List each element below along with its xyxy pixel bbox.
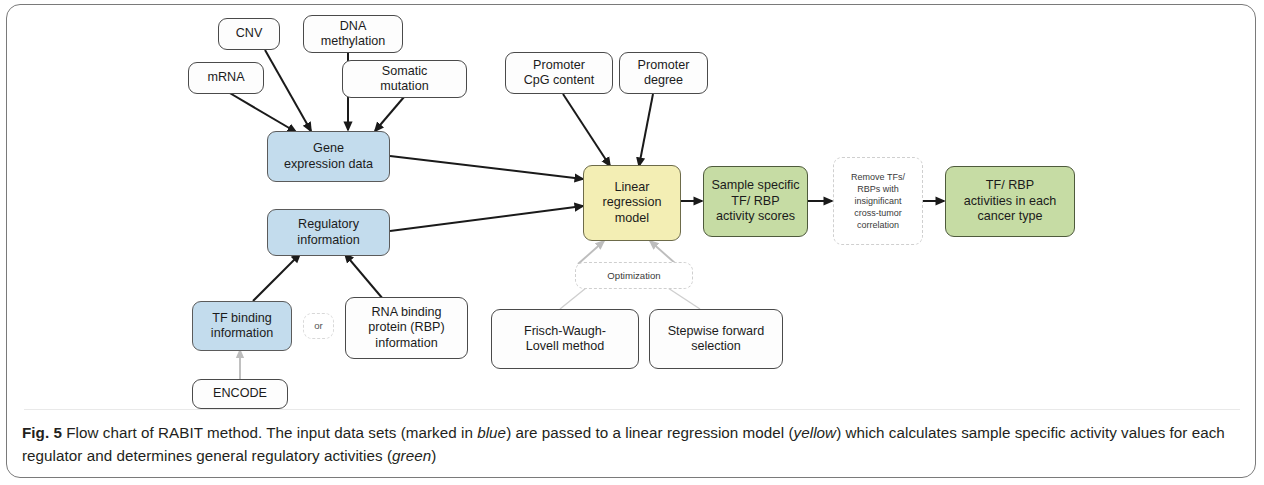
node-or-connector: or (303, 313, 334, 339)
node-remove-tfs-rbps-line2: RBPs with (857, 183, 899, 195)
node-regulatory-information[interactable]: Regulatory information (267, 209, 390, 256)
node-rna-binding-protein-information[interactable]: RNA binding protein (RBP) information (345, 297, 468, 359)
node-mrna-label: mRNA (207, 70, 244, 85)
node-rbp-line3: information (375, 336, 437, 351)
node-remove-tfs-rbps-line4: cross-tumor (854, 207, 902, 219)
node-gene-expression-data[interactable]: Gene expression data (267, 131, 390, 182)
node-somatic-mutation-line2: mutation (380, 79, 428, 94)
node-frisch-waugh-lovell-line2: Lovell method (526, 339, 604, 354)
figure-caption: Fig. 5 Flow chart of RABIT method. The i… (22, 421, 1244, 467)
node-promoter-degree-line1: Promoter (638, 58, 690, 73)
node-remove-tfs-rbps-line1: Remove TFs/ (851, 171, 905, 183)
node-frisch-waugh-lovell-line1: Frisch-Waugh- (524, 324, 606, 339)
node-regulatory-information-line1: Regulatory (298, 217, 359, 232)
node-optimization-label: Optimization (607, 270, 660, 282)
node-remove-tfs-rbps: Remove TFs/ RBPs with insignificant cros… (833, 157, 923, 245)
node-tf-rbp-activities-line3: cancer type (977, 209, 1042, 224)
node-remove-tfs-rbps-line3: insignificant (854, 195, 901, 207)
node-sample-specific-scores-line3: activity scores (716, 209, 795, 224)
node-tf-binding-information-line2: information (211, 326, 273, 341)
caption-text-4: ) (431, 447, 436, 464)
node-rbp-line1: RNA binding (371, 305, 441, 320)
caption-text-1: Flow chart of RABIT method. The input da… (62, 424, 477, 441)
node-linear-regression-model-line1: Linear (614, 180, 649, 195)
node-gene-expression-data-line1: Gene (313, 141, 344, 156)
node-promoter-degree[interactable]: Promoter degree (619, 52, 708, 94)
node-encode[interactable]: ENCODE (192, 379, 288, 409)
node-tf-rbp-activities-line2: activities in each (964, 194, 1056, 209)
node-regulatory-information-line2: information (297, 233, 359, 248)
node-promoter-cpg-content-line1: Promoter (533, 58, 585, 73)
node-linear-regression-model[interactable]: Linear regression model (583, 165, 681, 241)
node-dna-methylation-line2: methylation (321, 34, 385, 49)
node-encode-label: ENCODE (213, 386, 267, 401)
flowchart-canvas: CNV DNA methylation mRNA Somatic mutatio… (0, 0, 1264, 485)
node-dna-methylation-line1: DNA (340, 19, 367, 34)
node-gene-expression-data-line2: expression data (284, 157, 373, 172)
node-linear-regression-model-line2: regression (603, 195, 662, 210)
node-promoter-degree-line2: degree (644, 73, 683, 88)
node-mrna[interactable]: mRNA (188, 62, 264, 94)
node-sample-specific-scores[interactable]: Sample specific TF/ RBP activity scores (703, 166, 808, 237)
node-or-connector-label: or (314, 320, 323, 332)
node-stepwise-forward-selection-line1: Stepwise forward (668, 324, 765, 339)
node-sample-specific-scores-line2: TF/ RBP (731, 194, 779, 209)
node-sample-specific-scores-line1: Sample specific (711, 178, 799, 193)
caption-text-2: ) are passed to a linear regression mode… (506, 424, 793, 441)
node-promoter-cpg-content-line2: CpG content (524, 73, 595, 88)
node-rbp-line2: protein (RBP) (368, 320, 444, 335)
node-tf-rbp-activities[interactable]: TF/ RBP activities in each cancer type (945, 166, 1075, 237)
node-tf-rbp-activities-line1: TF/ RBP (986, 178, 1034, 193)
node-cnv-label: CNV (236, 26, 263, 41)
caption-em-yellow: yellow (794, 424, 837, 441)
node-linear-regression-model-line3: model (615, 211, 649, 226)
node-dna-methylation[interactable]: DNA methylation (303, 15, 403, 53)
node-tf-binding-information[interactable]: TF binding information (192, 301, 292, 351)
figure-panel: CNV DNA methylation mRNA Somatic mutatio… (0, 0, 1264, 485)
node-optimization: Optimization (575, 262, 693, 289)
node-frisch-waugh-lovell[interactable]: Frisch-Waugh- Lovell method (491, 309, 639, 369)
node-somatic-mutation[interactable]: Somatic mutation (342, 60, 467, 98)
figure-label: Fig. 5 (22, 424, 62, 441)
caption-separator (24, 409, 1240, 410)
caption-em-blue: blue (477, 424, 506, 441)
node-promoter-cpg-content[interactable]: Promoter CpG content (505, 52, 613, 94)
node-stepwise-forward-selection-line2: selection (691, 339, 741, 354)
caption-em-green: green (392, 447, 431, 464)
node-somatic-mutation-line1: Somatic (382, 64, 428, 79)
node-tf-binding-information-line1: TF binding (212, 311, 272, 326)
node-stepwise-forward-selection[interactable]: Stepwise forward selection (649, 309, 783, 369)
node-remove-tfs-rbps-line5: correlation (857, 219, 899, 231)
node-cnv[interactable]: CNV (218, 18, 280, 50)
